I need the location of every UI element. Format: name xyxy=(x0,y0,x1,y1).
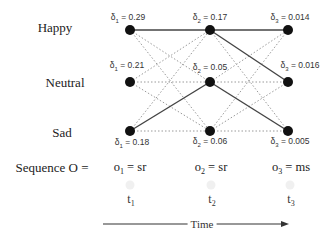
delta-sad-t2: δ2 = 0.06 xyxy=(193,136,227,148)
delta-neutral-t1: δ1 = 0.21 xyxy=(110,60,144,72)
node-sad-t1 xyxy=(125,126,135,136)
observation-t1: o1 = sr xyxy=(114,160,147,177)
node-neutral-t2 xyxy=(205,77,215,87)
node-neutral-t3 xyxy=(283,77,293,87)
time-step-t1: t1 xyxy=(127,192,134,208)
ghost-dot-t1 xyxy=(126,181,135,190)
delta-neutral-t2: δ2 = 0.05 xyxy=(193,62,227,74)
ghost-dot-t2 xyxy=(207,181,216,190)
time-step-t3: t3 xyxy=(287,192,294,208)
trellis-graph xyxy=(0,0,329,243)
time-step-t2: t2 xyxy=(208,192,215,208)
node-neutral-t1 xyxy=(125,77,135,87)
ghost-dot-t3 xyxy=(286,181,295,190)
node-happy-t3 xyxy=(283,25,293,35)
delta-neutral-t3: δ3 = 0.016 xyxy=(280,60,319,72)
delta-happy-t2: δ2 = 0.17 xyxy=(193,12,227,24)
state-label-sad: Sad xyxy=(52,125,72,141)
viterbi-trellis-diagram: Happy Neutral Sad δ1 = 0.29 δ1 = 0.21 δ1… xyxy=(0,0,329,243)
sequence-label: Sequence O = xyxy=(15,160,88,176)
observation-t3: o3 = ms xyxy=(272,160,310,177)
node-happy-t1 xyxy=(125,25,135,35)
state-label-happy: Happy xyxy=(38,20,73,36)
state-label-neutral: Neutral xyxy=(46,75,85,91)
delta-sad-t1: δ1 = 0.18 xyxy=(115,137,149,149)
delta-sad-t3: δ3 = 0.005 xyxy=(270,136,309,148)
node-sad-t3 xyxy=(283,126,293,136)
delta-happy-t1: δ1 = 0.29 xyxy=(111,12,145,24)
node-happy-t2 xyxy=(205,25,215,35)
delta-happy-t3: δ3 = 0.014 xyxy=(270,12,309,24)
observation-t2: o2 = sr xyxy=(195,160,228,177)
time-axis-label: Time xyxy=(188,218,217,230)
node-sad-t2 xyxy=(205,126,215,136)
